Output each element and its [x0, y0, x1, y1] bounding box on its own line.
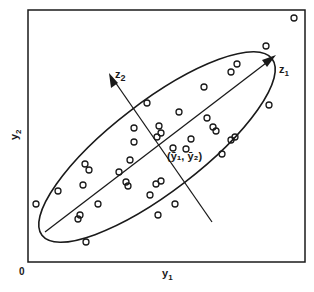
data-point: [176, 109, 182, 115]
data-point: [147, 192, 153, 198]
data-point: [131, 125, 137, 131]
data-point: [234, 61, 240, 67]
data-point: [172, 201, 178, 207]
data-point: [33, 201, 39, 207]
data-point: [131, 139, 137, 145]
data-point: [95, 201, 101, 207]
data-point: [188, 136, 194, 142]
major-axis-z1: [45, 60, 270, 232]
z2-label: z2: [115, 68, 126, 83]
data-point: [144, 100, 150, 106]
data-point: [83, 239, 89, 245]
data-point: [291, 15, 297, 21]
data-point: [263, 43, 269, 49]
data-point: [156, 123, 162, 129]
data-point: [266, 102, 272, 108]
data-point: [80, 182, 86, 188]
data-point: [154, 134, 160, 140]
data-point: [82, 161, 88, 167]
pca-diagram: z1 z2 (ȳ₁, ȳ₂) y1 y2 0: [0, 0, 314, 292]
data-point: [116, 169, 122, 175]
data-point: [86, 167, 92, 173]
data-point: [228, 69, 234, 75]
x-axis-label: y1: [162, 267, 173, 282]
origin-label: 0: [19, 266, 25, 277]
data-point: [127, 157, 133, 163]
data-point: [219, 151, 225, 157]
data-point: [201, 84, 207, 90]
data-point: [158, 178, 164, 184]
data-point: [55, 188, 61, 194]
data-point: [155, 212, 161, 218]
z1-label: z1: [279, 63, 290, 78]
centroid-label: (ȳ₁, ȳ₂): [167, 150, 202, 162]
y-axis-label: y2: [8, 129, 23, 140]
data-point: [204, 115, 210, 121]
